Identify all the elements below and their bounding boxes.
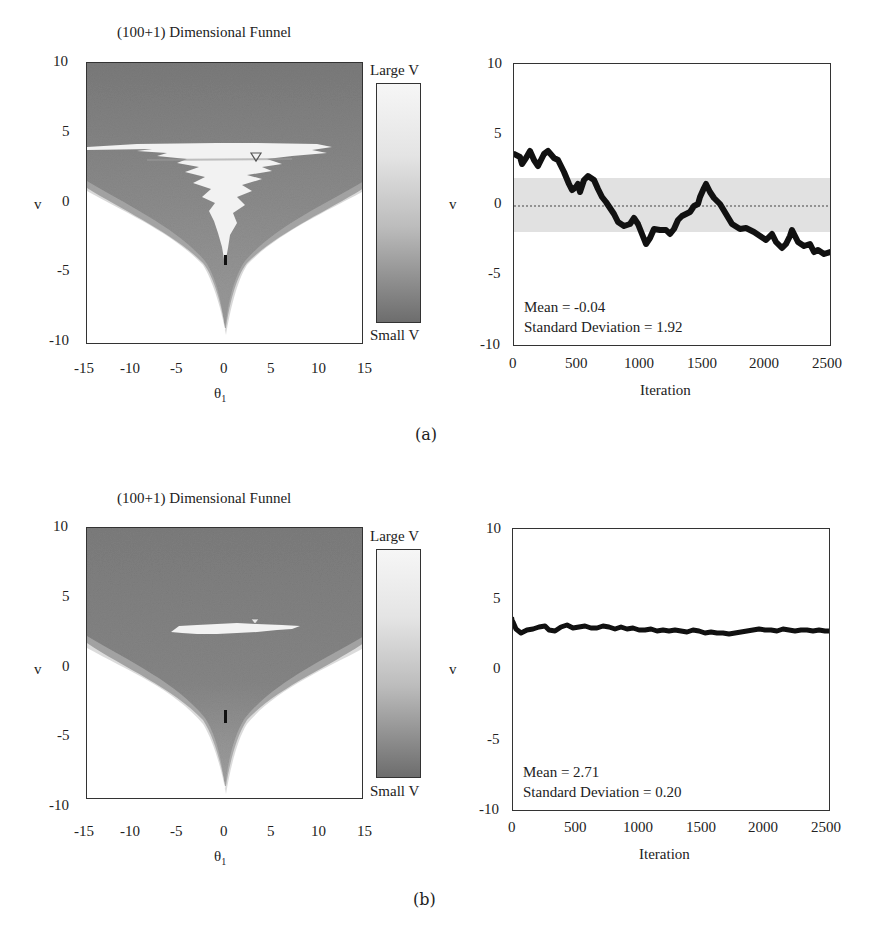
xtick: 1500 [687,356,717,371]
colorbar-bottom-label: Small V [370,327,419,344]
xtick: 10 [311,824,326,839]
ytick: -5 [57,728,70,743]
ytick: 5 [494,126,502,141]
colorbar-a [376,83,421,323]
ytick: -10 [49,798,69,813]
ytick: 10 [53,519,68,534]
colorbar-b [376,549,421,778]
funnel-heatmap-a [86,62,363,344]
y-axis-label: v [34,661,42,678]
colorbar-top-label: Large V [370,528,419,545]
xtick: 10 [311,361,326,376]
xtick: -5 [170,824,183,839]
ytick: 0 [494,196,502,211]
xtick: 0 [509,356,517,371]
x-axis-label-sub: 1 [221,393,226,404]
xtick: 1000 [624,356,654,371]
x-axis-label-sub: 1 [221,856,226,867]
mean-stat: Mean = 2.71 [523,763,599,782]
xtick: 0 [508,820,516,835]
y-axis-label: v [34,196,42,213]
ytick: -5 [487,732,500,747]
heatmap-title-a: (100+1) Dimensional Funnel [117,24,291,41]
xtick: 2500 [812,356,842,371]
ytick: 5 [493,591,501,606]
ytick: 10 [486,521,501,536]
sd-stat: Standard Deviation = 0.20 [523,783,681,802]
ytick: 0 [493,661,501,676]
xtick: 2500 [811,820,841,835]
ytick: -5 [57,263,70,278]
x-axis-label: Iteration [639,846,690,863]
xtick: 2000 [748,820,778,835]
ytick: 10 [53,54,68,69]
xtick: -10 [120,361,140,376]
colorbar-bottom-label: Small V [370,783,419,800]
xtick: -15 [74,361,94,376]
xtick: 15 [357,824,372,839]
xtick: -15 [74,824,94,839]
panel-label-b: (b) [413,890,436,909]
x-axis-label: θ1 [214,385,226,404]
funnel-heatmap-b [86,527,363,799]
xtick: 5 [267,361,275,376]
panel-label-a: (a) [415,425,437,444]
xtick: -10 [120,824,140,839]
heatmap-title-b: (100+1) Dimensional Funnel [117,490,291,507]
ytick: -10 [480,337,500,352]
xtick: -5 [170,361,183,376]
ytick: 10 [487,56,502,71]
xtick: 2000 [749,356,779,371]
y-axis-label: v [449,661,457,678]
colorbar-top-label: Large V [370,62,419,79]
ytick: 0 [62,659,70,674]
xtick: 0 [220,824,228,839]
y-axis-label: v [449,196,457,213]
ytick: 5 [62,589,70,604]
x-axis-label: θ1 [214,848,226,867]
xtick: 15 [357,361,372,376]
xtick: 1000 [623,820,653,835]
ytick: 5 [62,124,70,139]
xtick: 500 [565,356,588,371]
ytick: -5 [488,266,501,281]
ytick: -10 [49,333,69,348]
xtick: 0 [220,361,228,376]
mean-stat: Mean = -0.04 [524,298,605,317]
trace-plot-a: Mean = -0.04 Standard Deviation = 1.92 [513,63,831,346]
x-axis-label: Iteration [640,382,691,399]
sd-stat: Standard Deviation = 1.92 [524,318,682,337]
ytick: 0 [62,194,70,209]
xtick: 5 [267,824,275,839]
xtick: 500 [564,820,587,835]
trace-plot-b: Mean = 2.71 Standard Deviation = 0.20 [512,528,830,811]
xtick: 1500 [686,820,716,835]
ytick: -10 [479,802,499,817]
